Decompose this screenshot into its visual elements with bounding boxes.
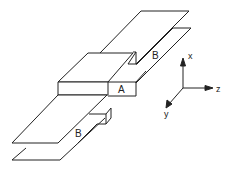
axis-label-y: y — [164, 109, 169, 119]
axis-label-x: x — [188, 51, 193, 61]
diagram: A B B x z y — [0, 0, 229, 171]
block-a — [58, 53, 146, 96]
label-block-a: A — [118, 84, 125, 95]
z-arrow-icon — [205, 86, 213, 91]
axis-label-z: z — [216, 84, 221, 94]
label-plate-upper-b: B — [152, 50, 159, 61]
lower-plate-b — [12, 95, 111, 160]
coordinate-axes — [166, 58, 213, 108]
label-plate-lower-b: B — [75, 128, 82, 139]
x-arrow-icon — [181, 58, 186, 66]
